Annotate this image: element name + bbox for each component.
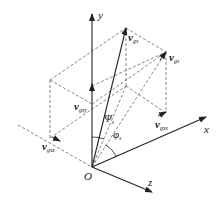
v-gsz-label: vgsz <box>42 141 55 153</box>
vector-v-gs-prime-tip <box>160 52 166 60</box>
v-gs-prime-label: vgs <box>169 52 179 64</box>
y-axis-label: y <box>98 10 103 21</box>
psi-angle-arc <box>92 137 104 139</box>
phi-angle-arc <box>106 145 116 156</box>
vector-v-gsx-tip <box>158 112 166 116</box>
diagram-canvas <box>0 0 222 200</box>
vector-decomposition-diagram: y x z O vgs vgs vgsy vgsz vgsx Ψs φs <box>0 0 222 200</box>
x-axis-label: x <box>204 124 209 135</box>
v-gs-label: vgs <box>128 32 138 44</box>
phi-angle-label: φs <box>113 129 121 141</box>
psi-angle-label: Ψs <box>104 113 114 125</box>
z-axis-label: z <box>148 177 152 188</box>
z-axis <box>92 167 152 192</box>
v-gsx-label: vgsx <box>155 119 168 131</box>
origin-label: O <box>84 171 92 182</box>
v-gsy-label: vgsy <box>74 101 87 113</box>
